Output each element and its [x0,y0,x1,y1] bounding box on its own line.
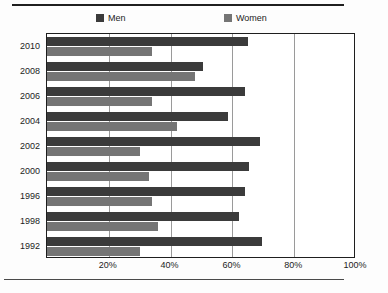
bar-group-1992 [47,234,354,259]
x-axis-labels: 20%40%60%80%100% [46,260,355,274]
bar-group-2004 [47,109,354,134]
bar-women-2010 [47,47,152,56]
chart-legend: Men Women [46,13,356,27]
bar-men-2010 [47,37,248,46]
bar-group-2008 [47,59,354,84]
bar-men-2002 [47,137,260,146]
bar-men-1992 [47,237,262,246]
bar-men-1996 [47,187,245,196]
x-tick-20%: 20% [99,260,117,270]
bar-group-2000 [47,159,354,184]
bar-women-2006 [47,97,152,106]
bar-women-2002 [47,147,140,156]
x-tick-80%: 80% [284,260,302,270]
bar-women-1992 [47,247,140,256]
bar-women-2000 [47,172,149,181]
y-tick-2002: 2002 [20,141,40,151]
y-tick-1998: 1998 [20,216,40,226]
bar-rows [47,34,354,257]
bar-women-2008 [47,72,195,81]
x-tick-60%: 60% [222,260,240,270]
y-tick-1992: 1992 [20,241,40,251]
y-axis-labels: 201020082006200420022000199619981992 [0,33,44,258]
bar-women-2004 [47,122,177,131]
bar-group-1998 [47,209,354,234]
x-tick-100%: 100% [343,260,366,270]
bottom-rule-divider [4,279,344,280]
bar-men-2008 [47,62,203,71]
y-tick-2010: 2010 [20,41,40,51]
legend-entry-women: Women [224,13,267,23]
bar-men-2004 [47,112,228,121]
bar-men-1998 [47,212,239,221]
plot-area [46,33,355,258]
top-rule-divider [12,4,344,6]
bar-men-2006 [47,87,245,96]
y-tick-2000: 2000 [20,166,40,176]
x-tick-40%: 40% [161,260,179,270]
legend-swatch-men [96,14,104,22]
bar-men-2000 [47,162,249,171]
legend-swatch-women [224,14,232,22]
bar-women-1998 [47,222,158,231]
bar-group-2002 [47,134,354,159]
y-tick-2004: 2004 [20,116,40,126]
chart-figure: Men Women 201020082006200420022000199619… [0,0,388,293]
legend-entry-men: Men [96,13,126,23]
bar-group-1996 [47,184,354,209]
legend-label-men: Men [108,13,126,23]
chart-title-clipped [0,0,388,3]
bar-group-2010 [47,34,354,59]
legend-label-women: Women [236,13,267,23]
y-tick-2006: 2006 [20,91,40,101]
bar-women-1996 [47,197,152,206]
bar-group-2006 [47,84,354,109]
y-tick-2008: 2008 [20,66,40,76]
y-tick-1996: 1996 [20,191,40,201]
